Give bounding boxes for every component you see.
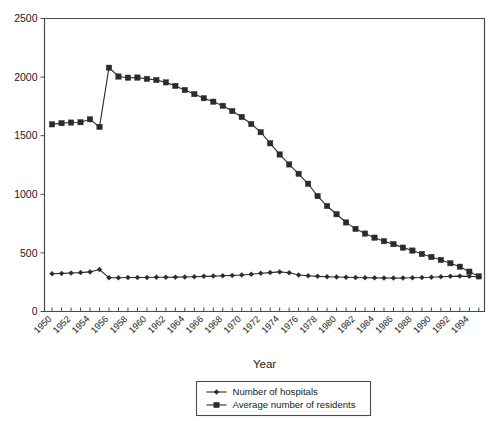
data-point-marker: [230, 273, 235, 278]
y-axis-tick-label: 2000: [14, 71, 38, 83]
x-axis-tick-label: 1992: [430, 314, 452, 336]
data-point-marker: [144, 76, 149, 81]
x-axis-tick-label: 1952: [51, 314, 73, 336]
data-point-marker: [381, 275, 386, 280]
data-point-marker: [116, 275, 121, 280]
data-point-marker: [362, 231, 367, 236]
data-point-marker: [78, 120, 83, 125]
data-point-marker: [296, 272, 301, 277]
data-point-marker: [59, 271, 64, 276]
data-point-marker: [201, 95, 206, 100]
data-point-marker: [258, 271, 263, 276]
data-point-marker: [429, 275, 434, 280]
data-point-marker: [192, 91, 197, 96]
data-point-marker: [277, 269, 282, 274]
data-point-marker: [173, 83, 178, 88]
data-point-marker: [372, 235, 377, 240]
data-point-marker: [163, 80, 168, 85]
x-axis-tick-label: 1994: [449, 314, 471, 336]
data-point-marker: [211, 274, 216, 279]
data-point-marker: [88, 269, 93, 274]
data-point-marker: [467, 274, 472, 279]
data-point-marker: [400, 245, 405, 250]
x-axis-tick-label: 1972: [241, 314, 263, 336]
y-axis-tick-label: 1000: [14, 188, 38, 200]
data-point-marker: [59, 120, 64, 125]
data-point-marker: [249, 121, 254, 126]
x-axis-tick-label: 1962: [146, 314, 168, 336]
data-point-marker: [296, 171, 301, 176]
data-point-marker: [135, 275, 140, 280]
data-point-marker: [211, 99, 216, 104]
data-point-marker: [214, 402, 219, 407]
data-point-marker: [125, 75, 130, 80]
data-point-marker: [220, 103, 225, 108]
x-axis-tick-label: 1986: [373, 314, 395, 336]
data-point-marker: [363, 275, 368, 280]
x-axis-tick-label: 1976: [279, 314, 301, 336]
y-axis-tick-label: 500: [20, 247, 38, 259]
data-point-marker: [438, 274, 443, 279]
data-point-marker: [353, 275, 358, 280]
data-point-marker: [182, 87, 187, 92]
data-point-marker: [343, 220, 348, 225]
x-axis-tick-label: 1964: [165, 314, 187, 336]
data-point-marker: [438, 257, 443, 262]
data-point-marker: [154, 77, 159, 82]
data-point-marker: [106, 65, 111, 70]
data-point-marker: [344, 275, 349, 280]
x-axis-tick-label: 1978: [297, 314, 319, 336]
data-point-marker: [457, 264, 462, 269]
series-line-square: [52, 68, 479, 277]
data-point-marker: [391, 276, 396, 281]
data-point-marker: [419, 251, 424, 256]
data-point-marker: [476, 274, 481, 279]
data-point-marker: [334, 212, 339, 217]
x-axis-tick-label: 1970: [222, 314, 244, 336]
data-point-marker: [448, 274, 453, 279]
data-point-marker: [315, 274, 320, 279]
data-point-marker: [173, 275, 178, 280]
data-point-marker: [325, 274, 330, 279]
data-point-marker: [268, 270, 273, 275]
x-axis-tick-label: 1984: [354, 314, 376, 336]
data-point-marker: [182, 274, 187, 279]
data-point-marker: [305, 181, 310, 186]
data-point-marker: [154, 275, 159, 280]
data-point-marker: [381, 238, 386, 243]
legend-label: Number of hospitals: [233, 386, 319, 397]
line-chart: 0500100015002000250019501952195419561958…: [0, 0, 500, 421]
x-axis-tick-label: 1968: [203, 314, 225, 336]
data-point-marker: [230, 108, 235, 113]
plot-frame: [45, 19, 485, 312]
data-point-marker: [97, 124, 102, 129]
data-point-marker: [201, 274, 206, 279]
data-point-marker: [249, 272, 254, 277]
chart-container: 0500100015002000250019501952195419561958…: [0, 0, 500, 421]
data-point-marker: [353, 226, 358, 231]
data-point-marker: [239, 272, 244, 277]
data-point-marker: [324, 203, 329, 208]
data-point-marker: [116, 74, 121, 79]
data-point-marker: [391, 241, 396, 246]
data-point-marker: [239, 114, 244, 119]
x-axis-tick-label: 1974: [260, 314, 282, 336]
data-point-marker: [372, 275, 377, 280]
data-point-marker: [429, 254, 434, 259]
y-axis-tick-label: 0: [32, 305, 38, 317]
data-point-marker: [467, 269, 472, 274]
data-point-marker: [144, 275, 149, 280]
data-point-marker: [410, 248, 415, 253]
data-point-marker: [410, 275, 415, 280]
x-axis-tick-label: 1956: [89, 314, 111, 336]
x-axis-tick-label: 1980: [316, 314, 338, 336]
y-axis-tick-label: 1500: [14, 129, 38, 141]
data-point-marker: [400, 275, 405, 280]
data-point-marker: [457, 274, 462, 279]
series-line-diamond: [52, 270, 479, 279]
x-axis-tick-label: 1960: [127, 314, 149, 336]
y-axis-tick-label: 2500: [14, 12, 38, 24]
data-point-marker: [286, 162, 291, 167]
data-point-marker: [69, 271, 74, 276]
data-point-marker: [135, 75, 140, 80]
